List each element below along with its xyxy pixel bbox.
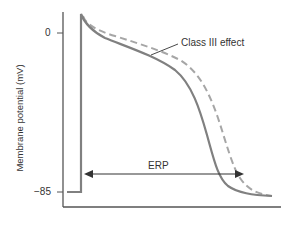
- tick-label-rest: −85: [34, 187, 51, 197]
- class3-effect-label: Class III effect: [181, 38, 244, 48]
- tick-label-zero: 0: [45, 28, 51, 38]
- erp-arrowhead-right: [235, 170, 244, 178]
- erp-label: ERP: [148, 161, 169, 171]
- y-axis-label: Membrane potential (mV): [14, 64, 25, 171]
- erp-arrowhead-left: [84, 170, 93, 178]
